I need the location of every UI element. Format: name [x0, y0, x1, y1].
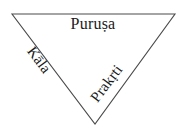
label-purusa: Puruṣa	[0, 16, 186, 32]
triangle-diagram: Puruṣa Kāla Prakṛti	[0, 0, 186, 132]
